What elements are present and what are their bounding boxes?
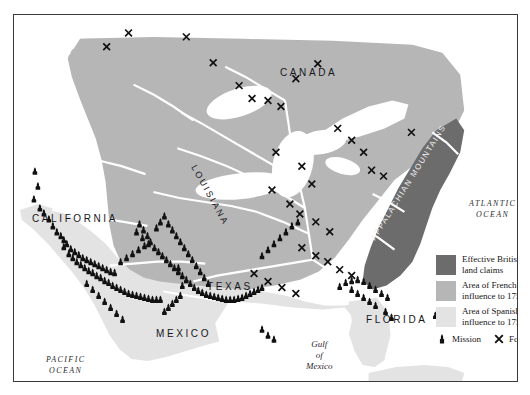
mission-marker-icon [436,333,448,345]
label-atlantic-ocean: ATLANTIC OCEAN [469,198,516,220]
legend-label-british: Effective British land claims [462,254,518,275]
gulf-line-2: of [306,350,332,361]
legend-marker-row: Mission Fort [436,333,518,345]
legend-item-french: Area of French influence to 1750 [436,280,518,301]
gulf-line-3: Mexico [306,361,332,372]
atlantic-line-2: OCEAN [469,209,516,220]
pacific-line-1: PACIFIC [46,354,85,365]
legend-label-french: Area of French influence to 1750 [462,280,518,301]
gulf-line-1: Gulf [306,339,332,350]
pacific-line-2: OCEAN [46,365,85,376]
fort-marker-icon [493,333,505,345]
legend-fort-label: Fort [509,334,518,344]
legend-label-spanish: Area of Spanish influence to 1750 [462,306,518,327]
legend-item-british: Effective British land claims [436,254,518,275]
label-pacific-ocean: PACIFIC OCEAN [46,354,85,376]
legend-item-mission: Mission [436,333,481,345]
legend-british-line-1: Effective British [462,254,518,265]
legend-spanish-line-2: influence to 1750 [462,317,518,328]
atlantic-line-1: ATLANTIC [469,198,516,209]
legend-mission-label: Mission [452,334,481,344]
legend-french-line-2: influence to 1750 [462,291,518,302]
legend-swatch-french [436,281,456,301]
legend-spanish-line-1: Area of Spanish [462,306,518,317]
legend-swatch-british [436,255,456,275]
map-frame: CANADA CALIFORNIA TEXAS MEXICO FLORIDA L… [13,14,518,382]
map-page: CANADA CALIFORNIA TEXAS MEXICO FLORIDA L… [0,0,530,395]
label-gulf-of-mexico: Gulf of Mexico [306,339,332,372]
legend-british-line-2: land claims [462,265,518,276]
legend-french-line-1: Area of French [462,280,518,291]
map-legend: Effective British land claims Area of Fr… [436,254,518,345]
legend-swatch-spanish [436,307,456,327]
legend-item-fort: Fort [493,333,518,345]
legend-item-spanish: Area of Spanish influence to 1750 [436,306,518,327]
